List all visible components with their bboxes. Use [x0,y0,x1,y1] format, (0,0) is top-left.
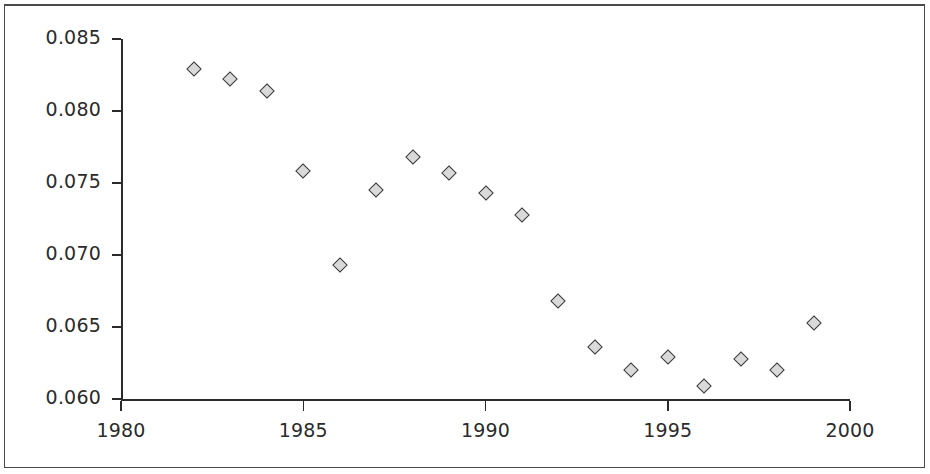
y-tick-label: 0.070 [6,242,101,264]
figure-container: 0.0600.0650.0700.0750.0800.085 198019851… [0,0,930,474]
x-tick-mark [120,401,122,411]
y-tick-mark [112,182,121,184]
data-point-marker [368,182,384,198]
y-tick-label: 0.065 [6,314,101,336]
data-point-marker [259,83,275,99]
y-tick-label: 0.075 [6,170,101,192]
x-tick-mark [849,401,851,411]
y-tick-label: 0.085 [6,26,101,48]
y-tick-label: 0.080 [6,98,101,120]
x-tick-label: 2000 [800,419,900,441]
x-tick-label: 1985 [253,419,353,441]
data-point-marker [478,185,494,201]
data-point-marker [733,351,749,367]
data-point-marker [332,257,348,273]
data-point-marker [514,207,530,223]
data-point-marker [441,165,457,181]
y-tick-label: 0.060 [6,386,101,408]
data-point-marker [696,378,712,394]
x-tick-mark [303,401,305,411]
data-point-marker [223,72,239,88]
x-tick-mark [485,401,487,411]
x-tick-mark [667,401,669,411]
data-point-marker [660,349,676,365]
data-point-marker [806,315,822,331]
data-point-marker [769,362,785,378]
data-point-marker [624,362,640,378]
y-tick-mark [112,326,121,328]
data-point-marker [186,61,202,77]
data-point-marker [405,149,421,165]
x-tick-label: 1990 [436,419,536,441]
x-tick-label: 1980 [71,419,171,441]
y-tick-mark [112,254,121,256]
data-point-marker [551,293,567,309]
y-tick-mark [112,38,121,40]
data-point-marker [587,339,603,355]
y-axis-line [121,39,123,399]
y-tick-mark [112,110,121,112]
x-tick-label: 1995 [618,419,718,441]
scatter-plot: 0.0600.0650.0700.0750.0800.085 198019851… [0,0,930,474]
data-point-marker [295,164,311,180]
